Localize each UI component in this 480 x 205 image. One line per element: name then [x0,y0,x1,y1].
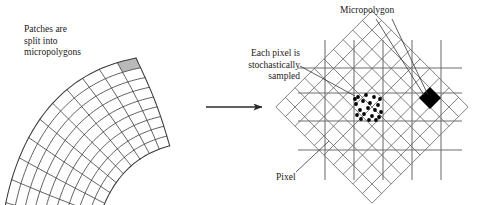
label-each-pixel-is-stochastically-sampled: Each pixel is stochastically sampled [196,48,300,83]
micropolygon-grid [276,11,468,203]
black-micropolygon [419,87,441,109]
label-micropolygon: Micropolygon [340,5,394,17]
label-patches-are-split-into-micropolygons: Patches are split into micropolygons [24,24,81,59]
label-pixel: Pixel [276,172,296,184]
curved-patch-grid [2,58,170,205]
stochastic-sample-dots [353,93,383,122]
leader-lines [296,19,428,172]
figure-canvas: Patches are split into micropolygons Eac… [0,0,480,205]
